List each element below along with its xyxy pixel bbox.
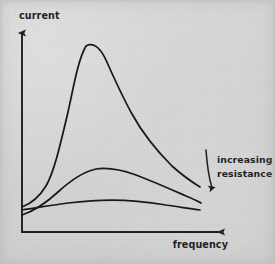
annotation-line-1: increasing xyxy=(217,154,272,165)
curve-low-resistance xyxy=(22,45,200,207)
curve-high-resistance xyxy=(22,200,200,210)
curve-medium-resistance xyxy=(22,168,201,215)
resonance-curves-figure: current frequency increasing resistance xyxy=(0,0,275,264)
plot-canvas: current frequency increasing resistance xyxy=(0,0,275,264)
axis-lines xyxy=(22,33,221,232)
x-axis-label: frequency xyxy=(173,239,229,250)
annotation-line-2: resistance xyxy=(217,168,272,179)
increasing-resistance-arrow-icon xyxy=(206,150,212,188)
y-axis-label: current xyxy=(19,10,60,21)
